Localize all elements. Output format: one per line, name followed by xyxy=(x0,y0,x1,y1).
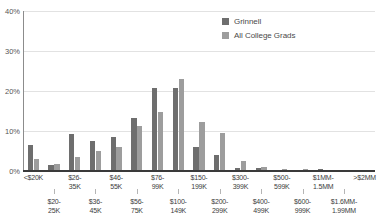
x-tick-label: $1.6MM-1.99MM xyxy=(322,198,366,215)
x-tick-label: $150-199K xyxy=(177,174,221,191)
x-tick-label: >$2MM xyxy=(343,174,379,183)
y-axis-line xyxy=(23,11,24,172)
x-tick-label: $100-149K xyxy=(156,198,200,215)
bar xyxy=(179,79,184,171)
bar xyxy=(111,137,116,171)
legend-label-all-college-grads: All College Grads xyxy=(234,31,295,40)
bar xyxy=(158,112,163,171)
y-tick-label: 20% xyxy=(0,87,20,96)
bars-layer xyxy=(23,11,375,171)
legend-label-grinnell: Grinnell xyxy=(234,17,261,26)
y-tick-label: 10% xyxy=(0,127,20,136)
bar xyxy=(137,126,142,171)
legend-item-all-college-grads: All College Grads xyxy=(222,29,295,41)
x-tick-label: $36-45K xyxy=(73,198,117,215)
bar xyxy=(96,151,101,171)
x-tick-label: $500-599K xyxy=(260,174,304,191)
bar xyxy=(28,145,33,171)
legend-swatch-grinnell xyxy=(222,18,229,25)
bar xyxy=(193,147,198,171)
bar xyxy=(75,157,80,171)
x-tick-label: $26-35K xyxy=(53,174,97,191)
x-tick-label: $400-499K xyxy=(239,198,283,215)
x-tick-label: $200-299K xyxy=(198,198,242,215)
income-distribution-chart: 0%10%20%30%40% Grinnell All College Grad… xyxy=(0,0,379,219)
x-axis-tick-labels: <$20K$20-25K$26-35K$36-45K$46-55K$56-75K… xyxy=(0,172,379,219)
plot-area xyxy=(23,11,375,171)
x-tick-label: $76-99K xyxy=(136,174,180,191)
bar xyxy=(214,155,219,171)
x-tick-label: $46-55K xyxy=(94,174,138,191)
x-tick-mark xyxy=(344,189,345,194)
x-tick-label: $300-399K xyxy=(218,174,262,191)
bar xyxy=(173,88,178,171)
bar xyxy=(69,134,74,171)
x-tick-label: $56-75K xyxy=(115,198,159,215)
bar xyxy=(220,133,225,171)
x-tick-label: $1MM-1.5MM xyxy=(301,174,345,191)
bar xyxy=(199,122,204,171)
bar xyxy=(90,141,95,171)
legend-swatch-all-college-grads xyxy=(222,32,229,39)
x-tick-label: $600-999K xyxy=(281,198,325,215)
x-tick-label: $20-25K xyxy=(32,198,76,215)
x-tick-label: <$20K xyxy=(11,174,55,183)
bar xyxy=(152,88,157,171)
y-tick-label: 40% xyxy=(0,7,20,16)
chart-legend: Grinnell All College Grads xyxy=(222,15,295,43)
bar xyxy=(116,147,121,171)
legend-item-grinnell: Grinnell xyxy=(222,15,295,27)
bar xyxy=(131,118,136,171)
y-tick-label: 30% xyxy=(0,47,20,56)
